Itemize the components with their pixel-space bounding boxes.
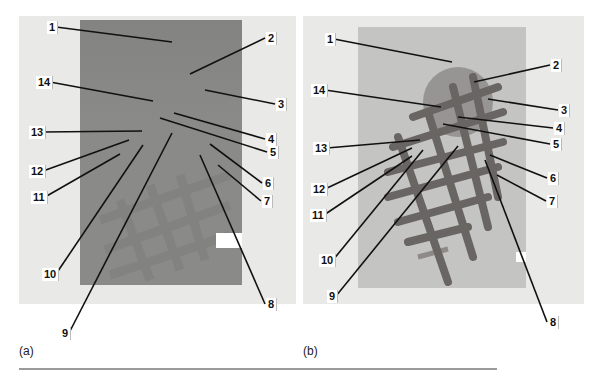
leader-line-a-1 [56, 27, 172, 42]
leader-line-a-7 [218, 165, 261, 201]
leader-line-b-6 [490, 155, 547, 178]
callout-label-a-5: 5 [268, 146, 279, 159]
callout-label-b-13: 13 [313, 142, 330, 155]
callout-label-a-9: 9 [60, 327, 71, 340]
leader-line-b-7 [497, 175, 546, 201]
leader-line-b-9 [336, 146, 458, 296]
callout-label-b-1: 1 [325, 33, 336, 46]
leader-line-b-14 [325, 90, 441, 107]
leader-line-b-3 [488, 99, 558, 110]
callout-label-b-11: 11 [310, 209, 327, 222]
leader-line-a-6 [210, 144, 262, 183]
callout-label-b-14: 14 [311, 84, 328, 97]
callout-label-a-7: 7 [262, 195, 273, 208]
callout-label-a-6: 6 [263, 177, 274, 190]
leader-line-b-1 [334, 39, 452, 62]
callout-label-a-10: 10 [42, 268, 59, 281]
leader-line-b-5 [443, 124, 550, 144]
callout-label-b-8: 8 [548, 316, 559, 329]
callout-label-b-9: 9 [327, 290, 338, 303]
callout-label-a-12: 12 [29, 165, 46, 178]
callout-label-b-3: 3 [559, 104, 570, 117]
callout-label-b-4: 4 [554, 122, 565, 135]
leader-line-a-13 [43, 131, 142, 132]
leader-line-b-2 [474, 65, 550, 82]
leader-line-a-11 [45, 154, 120, 197]
callout-label-b-12: 12 [311, 183, 328, 196]
leader-line-a-10 [56, 145, 143, 274]
callout-label-a-8: 8 [266, 298, 277, 311]
leader-line-b-13 [327, 140, 420, 148]
callout-label-b-10: 10 [319, 254, 336, 267]
callout-leader-lines [0, 0, 592, 375]
callout-label-a-1: 1 [47, 21, 58, 34]
panel-b-caption: (b) [303, 344, 318, 358]
leader-line-b-12 [325, 148, 412, 189]
leader-line-a-3 [205, 90, 275, 104]
leader-line-b-11 [324, 156, 412, 215]
callout-label-b-6: 6 [548, 172, 559, 185]
callout-label-b-7: 7 [547, 195, 558, 208]
callout-label-a-13: 13 [29, 126, 46, 139]
bottom-rule-divider [19, 368, 497, 370]
callout-label-b-2: 2 [551, 59, 562, 72]
callout-label-a-11: 11 [31, 191, 48, 204]
callout-label-a-2: 2 [266, 32, 277, 45]
panel-a-caption: (a) [19, 344, 34, 358]
leader-line-b-4 [458, 117, 553, 128]
leader-line-a-2 [190, 38, 265, 74]
callout-label-a-14: 14 [36, 76, 53, 89]
callout-label-a-3: 3 [276, 98, 287, 111]
callout-label-b-5: 5 [551, 138, 562, 151]
leader-line-a-14 [50, 82, 153, 101]
callout-label-a-4: 4 [266, 133, 277, 146]
